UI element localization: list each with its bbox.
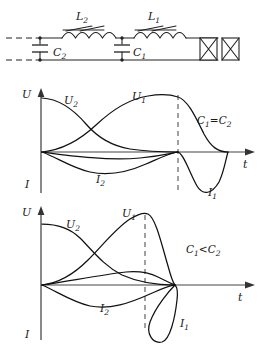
chart-top-label-U2: U2 (64, 94, 78, 109)
chart-bottom-label-I2: I2 (99, 302, 109, 317)
chart-bottom-label-I1: I1 (179, 317, 189, 332)
label-L1: L1 (147, 10, 160, 25)
chart-top-x-axis-arrow (245, 148, 255, 155)
crossed-box-inner (200, 38, 217, 60)
chart-top: U2 U1 I2 I1 U I t C1=C2 (22, 88, 255, 201)
crossed-box-outer (222, 38, 239, 60)
chart-top-axis-label-I: I (24, 178, 30, 191)
node-c1-top (120, 36, 123, 39)
label-C1: C1 (133, 46, 146, 61)
chart-bottom-x-axis-arrow (245, 281, 255, 288)
inductor-L1-coil (134, 33, 186, 39)
capacitor-C1 (114, 36, 130, 61)
chart-top-axis-label-t: t (243, 158, 248, 171)
chart-bottom: U2 U1 I2 I1 U I t C1<C2 (22, 206, 255, 342)
chart-top-condition: C1=C2 (197, 114, 232, 129)
chart-top-label-I2: I2 (95, 173, 105, 188)
label-C2: C2 (53, 46, 66, 61)
chart-top-axis-label-U: U (22, 88, 32, 101)
chart-top-y-axis-arrow (38, 88, 45, 97)
chart-bottom-condition: C1<C2 (186, 243, 221, 258)
label-L2: L2 (75, 10, 88, 25)
chart-bottom-axis-label-t: t (238, 291, 243, 304)
node-c1-bottom (120, 58, 123, 61)
chart-bottom-axis-label-U: U (22, 206, 32, 219)
chart-top-curve-I1 (42, 152, 228, 192)
capacitor-C2 (32, 36, 48, 61)
chart-bottom-axis-label-I: I (24, 328, 30, 341)
chart-top-label-I1: I1 (207, 186, 217, 201)
node-c2-top (38, 36, 41, 39)
chart-top-curve-U2 (42, 98, 178, 152)
figure-canvas: L2 L1 C2 C1 U2 U1 I2 (0, 0, 276, 358)
chart-top-label-U1: U1 (132, 90, 146, 105)
inductor-L1 (134, 26, 186, 38)
inductor-L2-coil (62, 33, 116, 39)
chart-bottom-label-U2: U2 (66, 218, 80, 233)
inductor-L2 (62, 26, 116, 38)
circuit-diagram: L2 L1 C2 C1 (6, 10, 239, 62)
chart-bottom-curve-I2 (42, 285, 175, 307)
figure-svg: L2 L1 C2 C1 U2 U1 I2 (0, 0, 276, 358)
chart-bottom-label-U1: U1 (122, 207, 136, 222)
chart-bottom-y-axis-arrow (38, 206, 45, 215)
node-c2-bottom (38, 58, 41, 61)
